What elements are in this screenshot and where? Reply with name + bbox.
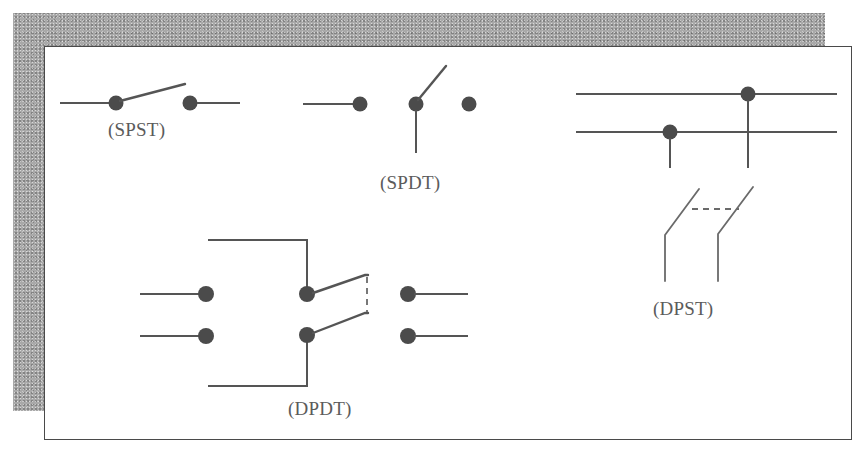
- diagram-card: [44, 46, 852, 440]
- figure-root: (SPST) (SPDT) (DPST) (DPDT): [0, 0, 866, 459]
- caption-spdt: (SPDT): [380, 172, 440, 194]
- caption-dpdt: (DPDT): [288, 398, 351, 420]
- caption-dpst: (DPST): [653, 298, 713, 320]
- caption-spst: (SPST): [108, 119, 165, 141]
